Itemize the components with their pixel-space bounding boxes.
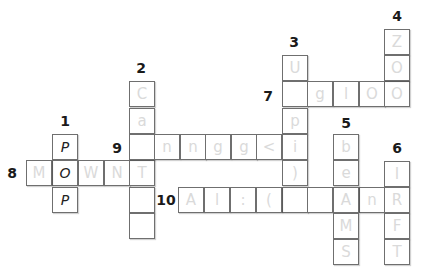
crossword-cell[interactable]: p (282, 108, 308, 134)
crossword-cell[interactable]: A (333, 187, 359, 213)
pencil-mark: O (366, 85, 378, 103)
crossword-cell[interactable] (307, 187, 333, 213)
crossword-cell[interactable]: ) (282, 160, 308, 186)
clue-number-5: 5 (341, 115, 351, 131)
crossword-cell[interactable]: n (180, 134, 206, 160)
pencil-mark: < (263, 138, 276, 156)
pencil-mark: C (137, 85, 147, 103)
crossword-cell[interactable]: M (26, 160, 52, 186)
crossword-cell[interactable]: O (384, 55, 410, 81)
crossword-cell[interactable]: l (204, 187, 230, 213)
pencil-mark: T (392, 243, 401, 261)
crossword-cell[interactable]: C (129, 81, 155, 107)
pencil-mark: e (341, 164, 350, 182)
crossword-cell[interactable] (129, 187, 155, 213)
crossword-cell[interactable]: g (205, 134, 231, 160)
pencil-mark: n (367, 191, 377, 209)
pencil-mark: M (340, 217, 353, 235)
crossword-cell[interactable]: e (333, 160, 359, 186)
pencil-mark: O (391, 59, 403, 77)
pencil-mark: F (393, 217, 402, 235)
crossword-cell[interactable]: l (333, 81, 359, 107)
crossword-cell[interactable]: O (384, 81, 410, 107)
crossword-cell[interactable]: T (384, 239, 410, 265)
pencil-mark: p (290, 112, 300, 130)
crossword-cell[interactable]: F (384, 213, 410, 239)
crossword-cell[interactable] (129, 134, 155, 160)
crossword-cell[interactable]: O (52, 160, 78, 186)
clue-number-8: 8 (7, 165, 17, 181)
clue-number-10: 10 (156, 192, 175, 208)
crossword-cell[interactable] (129, 213, 155, 239)
crossword-cell[interactable]: ( (256, 187, 282, 213)
crossword-cell[interactable]: I (384, 161, 410, 187)
pencil-mark: g (213, 138, 223, 156)
crossword-cell[interactable]: n (154, 134, 180, 160)
crossword-cell[interactable] (282, 81, 308, 107)
pencil-mark: U (290, 59, 301, 77)
crossword-cell[interactable]: A (178, 187, 204, 213)
pencil-mark: l (215, 191, 219, 209)
clue-number-7: 7 (263, 88, 273, 104)
clue-number-1: 1 (60, 113, 70, 129)
pencil-mark: W (84, 164, 99, 182)
crossword-grid: POPMWNTCanngg<Upi)glOOZOAl:(nbeAMSIRFT12… (0, 0, 421, 276)
pencil-mark: g (315, 85, 325, 103)
crossword-cell[interactable]: P (52, 134, 78, 160)
crossword-cell[interactable]: : (230, 187, 256, 213)
printed-letter: O (59, 165, 70, 181)
crossword-cell[interactable]: O (359, 81, 385, 107)
clue-number-9: 9 (112, 140, 122, 156)
pencil-mark: ) (292, 164, 298, 182)
pencil-mark: l (344, 85, 348, 103)
pencil-mark: g (239, 138, 249, 156)
crossword-cell[interactable]: W (78, 160, 104, 186)
pencil-mark: R (392, 191, 402, 209)
crossword-cell[interactable]: Z (384, 29, 410, 55)
pencil-mark: : (240, 191, 245, 209)
pencil-mark: O (391, 85, 403, 103)
crossword-cell[interactable]: P (52, 187, 78, 213)
crossword-cell[interactable]: M (333, 213, 359, 239)
crossword-cell[interactable]: g (307, 81, 333, 107)
pencil-mark: T (137, 164, 146, 182)
crossword-cell[interactable]: T (129, 160, 155, 186)
crossword-cell[interactable]: i (282, 134, 308, 160)
pencil-mark: b (341, 138, 351, 156)
pencil-mark: n (188, 138, 198, 156)
printed-letter: P (61, 192, 69, 208)
crossword-cell[interactable] (282, 187, 308, 213)
pencil-mark: A (341, 191, 351, 209)
pencil-mark: A (186, 191, 196, 209)
clue-number-4: 4 (392, 8, 402, 24)
crossword-cell[interactable]: S (333, 239, 359, 265)
clue-number-2: 2 (136, 60, 146, 76)
crossword-cell[interactable]: N (104, 160, 130, 186)
pencil-mark: n (162, 138, 172, 156)
pencil-mark: ( (266, 191, 272, 209)
printed-letter: P (61, 139, 69, 155)
pencil-mark: N (111, 164, 122, 182)
clue-number-6: 6 (392, 140, 402, 156)
crossword-cell[interactable]: a (129, 108, 155, 134)
pencil-mark: a (137, 112, 146, 130)
crossword-cell[interactable]: b (333, 134, 359, 160)
crossword-cell[interactable]: n (359, 187, 385, 213)
crossword-cell[interactable]: g (231, 134, 257, 160)
pencil-mark: i (293, 138, 297, 156)
clue-number-3: 3 (289, 34, 299, 50)
pencil-mark: S (341, 243, 351, 261)
pencil-mark: I (395, 165, 399, 183)
crossword-cell[interactable]: U (282, 55, 308, 81)
crossword-cell[interactable]: < (256, 134, 282, 160)
pencil-mark: Z (392, 33, 402, 51)
pencil-mark: M (33, 164, 46, 182)
crossword-cell[interactable]: R (384, 187, 410, 213)
